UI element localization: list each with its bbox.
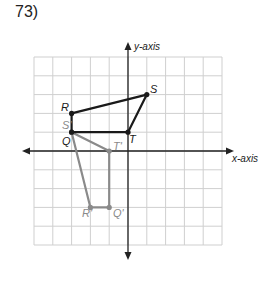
label-R: R [61,101,69,113]
label-R-prime: R' [82,207,93,219]
vertex-point-T-prime [107,148,112,153]
x-axis-left-arrow-icon [22,148,30,155]
vertex-point-Q-prime [107,205,112,210]
axes: x-axis y-axis [22,41,258,260]
label-S-prime: S' [62,119,72,131]
label-S: S [150,83,158,95]
label-Q-prime: Q' [113,207,125,219]
coordinate-plane: x-axis y-axis R S' Q S T T' R' Q' [0,0,274,281]
label-Q: Q [62,135,71,147]
vertex-point-S [144,92,149,97]
y-axis-up-arrow-icon [125,42,132,50]
label-T: T [129,133,137,145]
vertex-point-R [69,111,74,116]
x-axis-label: x-axis [231,153,258,164]
y-axis-label: y-axis [133,41,160,52]
label-T-prime: T' [113,140,123,152]
y-axis-down-arrow-icon [125,252,132,260]
